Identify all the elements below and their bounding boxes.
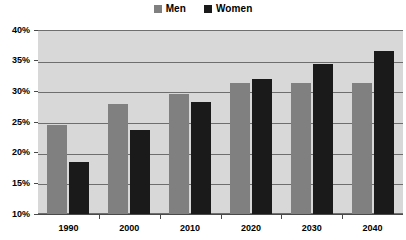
bar-men-2010 [169, 94, 189, 214]
bar-group [342, 30, 403, 214]
bar-group [160, 30, 221, 214]
legend-entry-women: Women [204, 4, 252, 14]
legend-swatch-men [154, 5, 162, 13]
legend-entry-men: Men [154, 4, 186, 14]
x-axis-tick-label: 2010 [160, 223, 221, 233]
bar-men-1990 [47, 125, 67, 214]
bar-women-2020 [252, 79, 272, 214]
y-axis-tick: 25% [12, 116, 38, 128]
y-axis-tick: 35% [12, 55, 38, 67]
bar-men-2030 [291, 83, 311, 214]
x-axis-tick-label: 2000 [99, 223, 160, 233]
x-axis-tick-label: 1990 [38, 223, 99, 233]
x-axis-tick-mark [221, 214, 222, 219]
bar-men-2040 [352, 83, 372, 214]
y-axis-tick-label: 25% [12, 118, 34, 127]
y-axis-tick: 15% [12, 177, 38, 189]
bar-men-2000 [108, 104, 128, 214]
y-axis-tick-label: 15% [12, 179, 34, 188]
bar-chart-figure: Men Women 40%35%30%25%20%15%10% 19902000… [0, 0, 406, 240]
bar-women-1990 [69, 162, 89, 214]
bar-group [38, 30, 99, 214]
x-axis-tick-label: 2040 [342, 223, 403, 233]
bar-group [281, 30, 342, 214]
y-axis-tick: 40% [12, 24, 38, 36]
x-axis-tick-mark [281, 214, 282, 219]
x-axis-tick-mark [160, 214, 161, 219]
y-axis-tick: 30% [12, 85, 38, 97]
x-axis-tick-mark [99, 214, 100, 219]
y-axis-tick-label: 30% [12, 87, 34, 96]
x-axis: 199020002010202020302040 [38, 214, 403, 238]
y-axis-tick-label: 10% [12, 210, 34, 219]
x-axis-tick-mark [342, 214, 343, 219]
x-axis-tick-label: 2020 [221, 223, 282, 233]
x-axis-tick-label: 2030 [281, 223, 342, 233]
bar-women-2000 [130, 130, 150, 214]
legend-label-men: Men [166, 4, 186, 14]
bar-group [221, 30, 282, 214]
y-axis-tick-label: 20% [12, 148, 34, 157]
bar-women-2040 [374, 51, 394, 214]
y-axis: 40%35%30%25%20%15%10% [0, 30, 38, 214]
bar-women-2010 [191, 102, 211, 214]
y-axis-tick-label: 40% [12, 26, 34, 35]
legend-swatch-women [204, 5, 212, 13]
bar-men-2020 [230, 83, 250, 214]
bars-layer [38, 30, 403, 214]
y-axis-tick-label: 35% [12, 56, 34, 65]
y-axis-tick: 10% [12, 208, 38, 220]
chart-legend: Men Women [0, 2, 406, 16]
bar-women-2030 [313, 64, 333, 214]
y-axis-tick: 20% [12, 147, 38, 159]
bar-group [99, 30, 160, 214]
legend-label-women: Women [216, 4, 252, 14]
